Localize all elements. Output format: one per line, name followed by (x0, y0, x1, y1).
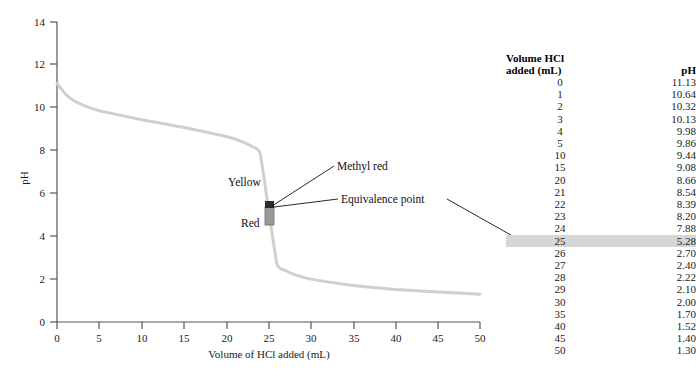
table-row: 351.70 (506, 308, 696, 320)
table-row: 208.66 (506, 174, 696, 186)
cell-ph: 10.64 (614, 88, 696, 100)
x-tick-15: 15 (179, 332, 191, 344)
cell-ph: 8.66 (614, 174, 696, 186)
table-row: 011.13 (506, 76, 696, 88)
table-row: 210.32 (506, 100, 696, 112)
cell-ph: 7.88 (614, 222, 696, 234)
methyl-red-indicator-marker (265, 201, 274, 225)
cell-ph: 9.44 (614, 149, 696, 161)
cell-volume: 24 (506, 222, 614, 234)
column-header-volume-line2: added (mL) (506, 64, 614, 76)
y-tick-14: 14 (34, 16, 46, 28)
cell-volume: 10 (506, 149, 614, 161)
cell-volume: 35 (506, 308, 614, 320)
cell-volume: 29 (506, 283, 614, 295)
cell-volume: 45 (506, 332, 614, 344)
x-tick-40: 40 (391, 332, 403, 344)
x-tick-35: 35 (349, 332, 361, 344)
table-row: 501.30 (506, 344, 696, 356)
cell-volume: 27 (506, 259, 614, 271)
table-body: 011.13110.64210.32310.1349.9859.86109.44… (506, 76, 696, 357)
cell-ph: 2.40 (614, 259, 696, 271)
column-header-ph: pH (614, 52, 696, 76)
cell-volume: 3 (506, 113, 614, 125)
methyl-red-leader-line (272, 166, 334, 206)
annotation-methyl-red: Methyl red (337, 160, 388, 173)
cell-ph: 9.86 (614, 137, 696, 149)
table-row: 218.54 (506, 186, 696, 198)
table-row: 228.39 (506, 198, 696, 210)
table-row: 302.00 (506, 296, 696, 308)
annotation-red: Red (241, 217, 260, 229)
cell-ph: 1.70 (614, 308, 696, 320)
table-row: 59.86 (506, 137, 696, 149)
cell-volume: 26 (506, 247, 614, 259)
y-axis-ticks (50, 22, 57, 322)
table-row: 451.40 (506, 332, 696, 344)
y-tick-2: 2 (40, 273, 46, 285)
cell-volume: 2 (506, 100, 614, 112)
cell-ph: 10.32 (614, 100, 696, 112)
table-row: 255.28 (506, 235, 696, 247)
annotation-yellow: Yellow (228, 176, 261, 188)
cell-volume: 20 (506, 174, 614, 186)
y-axis-tick-labels: 0 2 4 6 8 10 12 14 (34, 16, 46, 328)
x-tick-25: 25 (264, 332, 276, 344)
cell-volume: 1 (506, 88, 614, 100)
cell-volume: 23 (506, 210, 614, 222)
x-tick-45: 45 (433, 332, 445, 344)
cell-volume: 25 (506, 235, 614, 247)
y-tick-6: 6 (40, 187, 46, 199)
cell-ph: 8.54 (614, 186, 696, 198)
table-row: 110.64 (506, 88, 696, 100)
table-row: 282.22 (506, 271, 696, 283)
column-header-volume: Volume HCl added (mL) (506, 52, 614, 76)
ph-data-table-wrapper: Volume HCl added (mL) pH 011.13110.64210… (506, 52, 696, 357)
table-row: 272.40 (506, 259, 696, 271)
table-row: 262.70 (506, 247, 696, 259)
x-axis-ticks (57, 322, 480, 329)
cell-volume: 15 (506, 161, 614, 173)
cell-ph: 1.52 (614, 320, 696, 332)
x-tick-20: 20 (222, 332, 234, 344)
x-tick-50: 50 (475, 332, 487, 344)
table-row: 310.13 (506, 113, 696, 125)
cell-ph: 10.13 (614, 113, 696, 125)
x-tick-10: 10 (137, 332, 149, 344)
table-row: 109.44 (506, 149, 696, 161)
ph-data-table: Volume HCl added (mL) pH 011.13110.64210… (506, 52, 696, 357)
y-tick-0: 0 (40, 316, 46, 328)
cell-ph: 9.98 (614, 125, 696, 137)
y-axis-title: pH (18, 171, 30, 185)
cell-ph: 11.13 (614, 76, 696, 88)
cell-volume: 4 (506, 125, 614, 137)
cell-ph: 2.00 (614, 296, 696, 308)
cell-ph: 9.08 (614, 161, 696, 173)
cell-ph: 2.22 (614, 271, 696, 283)
cell-ph: 8.39 (614, 198, 696, 210)
x-tick-0: 0 (54, 332, 60, 344)
cell-ph: 2.70 (614, 247, 696, 259)
y-tick-10: 10 (34, 101, 46, 113)
x-axis-tick-labels: 0 5 10 15 20 25 30 35 40 45 50 (54, 332, 486, 344)
column-header-volume-line1: Volume HCl (506, 52, 614, 64)
equivalence-point-leader-line-left (274, 199, 338, 207)
cell-ph: 2.10 (614, 283, 696, 295)
cell-volume: 28 (506, 271, 614, 283)
table-row: 49.98 (506, 125, 696, 137)
cell-volume: 0 (506, 76, 614, 88)
cell-ph: 5.28 (614, 235, 696, 247)
y-tick-4: 4 (40, 230, 46, 242)
x-tick-5: 5 (96, 332, 102, 344)
cell-volume: 5 (506, 137, 614, 149)
table-row: 292.10 (506, 283, 696, 295)
table-row: 247.88 (506, 222, 696, 234)
table-row: 238.20 (506, 210, 696, 222)
x-tick-30: 30 (306, 332, 318, 344)
x-axis-title: Volume of HCl added (mL) (208, 348, 330, 361)
table-row: 401.52 (506, 320, 696, 332)
cell-volume: 21 (506, 186, 614, 198)
cell-volume: 50 (506, 344, 614, 356)
annotation-equivalence-point: Equivalence point (341, 193, 425, 206)
cell-volume: 30 (506, 296, 614, 308)
